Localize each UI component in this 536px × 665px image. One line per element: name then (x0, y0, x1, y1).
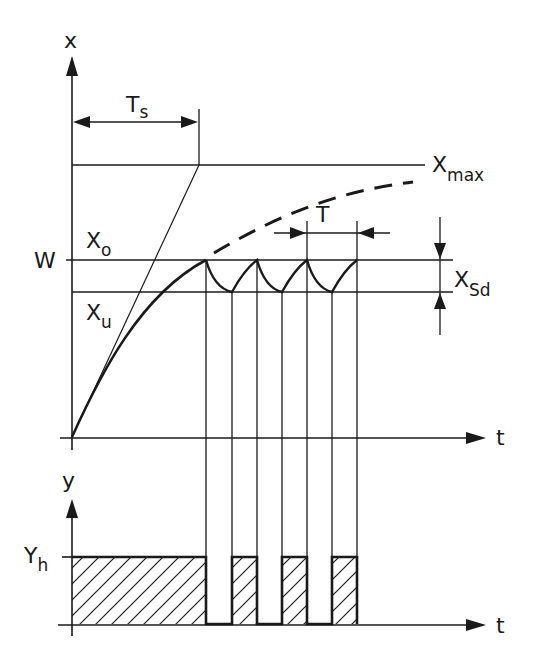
xo-label: Xo (86, 228, 111, 260)
step-response-curve (72, 260, 206, 437)
pulse-on (282, 557, 307, 624)
arrow-right-icon (181, 116, 198, 128)
uncontrolled-response-dashed (214, 182, 413, 253)
arrow-up-icon (66, 499, 78, 518)
oscillation-curve (206, 260, 357, 292)
xsd-label: XSd (454, 267, 491, 300)
arrow-right-icon (466, 619, 486, 631)
xu-label: Xu (86, 300, 112, 332)
arrow-right-icon (466, 432, 486, 444)
xsd-dimension (434, 217, 446, 335)
period-label: T (315, 202, 330, 227)
x-axis-label: x (64, 28, 77, 53)
lower-t-axis-label: t (496, 613, 505, 638)
lower-y-axis-label: y (62, 468, 75, 493)
arrow-up-icon (434, 293, 446, 309)
arrow-up-icon (66, 56, 78, 76)
arrow-down-icon (434, 243, 446, 259)
arrow-left-icon (358, 227, 374, 239)
ts-dimension (73, 109, 199, 165)
pulse-areas (72, 557, 357, 624)
arrow-right-icon (290, 227, 306, 239)
w-label: W (34, 248, 56, 273)
upper-t-axis-label: t (496, 425, 505, 450)
ts-label: Ts (125, 92, 148, 122)
labels: x Ts Xmax Xo W Xu T XSd t y Yh t (23, 28, 505, 638)
period-dimension (274, 227, 390, 239)
diagram-canvas: x Ts Xmax Xo W Xu T XSd t y Yh t (0, 0, 536, 665)
xmax-label: Xmax (432, 152, 484, 185)
arrow-left-icon (73, 116, 90, 128)
pulse-on (332, 557, 357, 624)
control-diagram: x Ts Xmax Xo W Xu T XSd t y Yh t (0, 0, 536, 665)
pulse-on (232, 557, 257, 624)
upper-x-axis (60, 432, 486, 444)
yh-label: Yh (23, 543, 48, 575)
pulse-on-initial (72, 557, 206, 624)
upper-y-axis (66, 56, 78, 450)
